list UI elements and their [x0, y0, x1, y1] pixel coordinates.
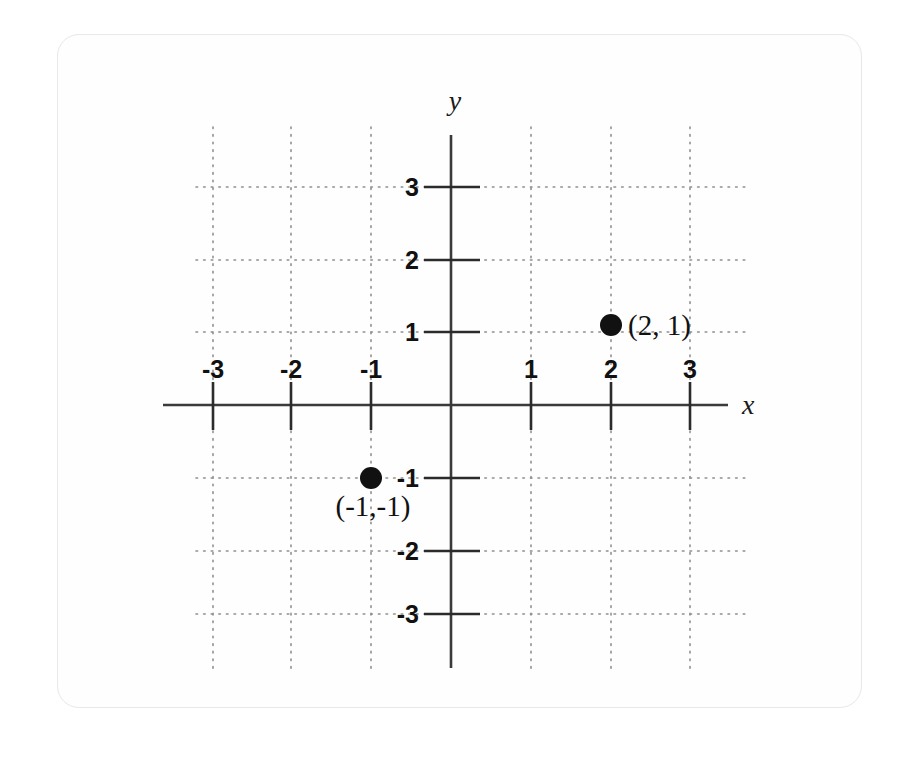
y-tick-label-3: 3 — [405, 175, 419, 200]
x-axis-label: x — [742, 391, 754, 419]
x-tick-label-2: 2 — [604, 357, 618, 382]
y-tick-label-neg3: -3 — [397, 602, 419, 627]
y-axis-label: y — [449, 87, 461, 115]
figure-root: -3 -2 -1 1 2 3 3 2 1 -1 -2 -3 x y (2, 1)… — [0, 0, 921, 764]
point-label-2-1: (2, 1) — [628, 311, 691, 340]
y-tick-label-neg2: -2 — [397, 539, 419, 564]
x-tick-label-3: 3 — [683, 357, 697, 382]
coordinate-plane-plot: -3 -2 -1 1 2 3 3 2 1 -1 -2 -3 x y (2, 1)… — [0, 0, 921, 764]
x-tick-label-1: 1 — [524, 357, 538, 382]
data-point-2-1 — [600, 314, 622, 336]
y-tick-label-1: 1 — [405, 320, 419, 345]
y-tick-label-neg1: -1 — [397, 466, 419, 491]
y-tick-label-2: 2 — [405, 248, 419, 273]
x-tick-label-neg1: -1 — [360, 357, 382, 382]
x-tick-label-neg3: -3 — [202, 357, 224, 382]
data-point-neg1-neg1 — [360, 467, 382, 489]
point-label-neg1-neg1: (-1,-1) — [336, 492, 411, 521]
x-tick-label-neg2: -2 — [280, 357, 302, 382]
